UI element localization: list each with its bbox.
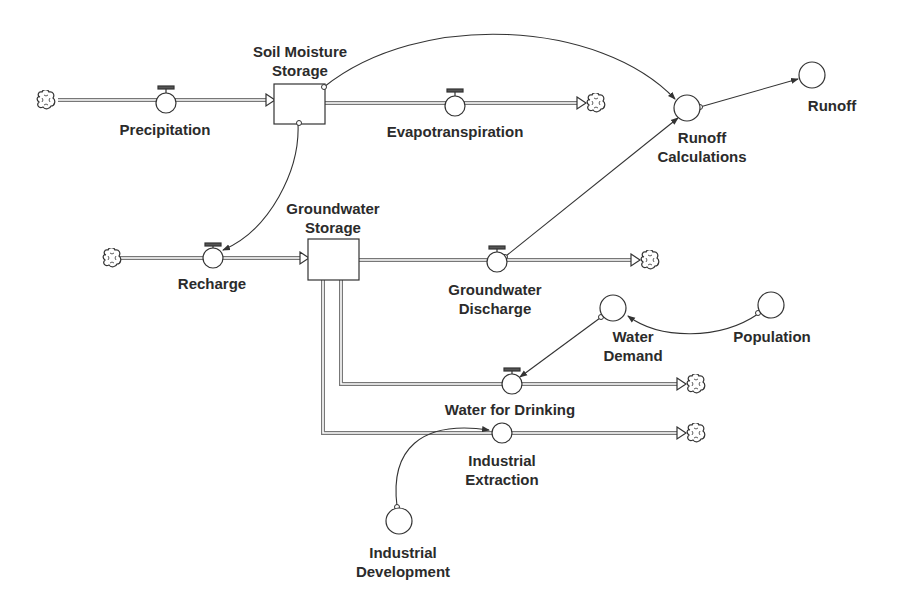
aux-runoff[interactable] (799, 62, 825, 88)
aux-water-demand[interactable] (600, 295, 626, 321)
connector-demand-to-drinking (520, 318, 600, 377)
flow-arrowhead (677, 427, 686, 439)
stock-groundwater[interactable] (308, 239, 359, 280)
stock-soil-moisture[interactable] (274, 84, 325, 124)
label-line: Water (603, 327, 662, 346)
label-groundwater-discharge: Groundwater Discharge (448, 280, 541, 318)
cloud-source-icon (37, 90, 55, 109)
aux-industrial-development[interactable] (386, 508, 412, 534)
aux-runoff-calculations[interactable] (674, 95, 700, 121)
flow-arrowhead (577, 97, 586, 109)
flow-pipes (58, 100, 678, 433)
cloud-source-icon (103, 248, 121, 267)
label-line: Soil Moisture (253, 42, 347, 61)
flow-arrowhead (677, 378, 686, 390)
label-line: Groundwater (448, 280, 541, 299)
label-groundwater-storage: Groundwater Storage (286, 199, 379, 237)
label-line: Storage (286, 218, 379, 237)
label-industrial-development: Industrial Development (356, 543, 450, 581)
cloud-sink-icon (687, 423, 705, 442)
valve-water-for-drinking[interactable] (502, 368, 522, 394)
label-line: Runoff (657, 128, 746, 147)
label-line: Storage (253, 61, 347, 80)
valve-industrial-extraction[interactable] (492, 423, 512, 443)
cloud-sink-icon (587, 93, 605, 112)
valve-groundwater-discharge[interactable] (487, 246, 507, 272)
label-population: Population (733, 327, 811, 346)
valve-evapotranspiration[interactable] (445, 89, 465, 116)
label-line: Calculations (657, 147, 746, 166)
connector-runoffcalc-to-runoff (700, 79, 798, 107)
label-line: Industrial (465, 451, 538, 470)
label-runoff: Runoff (808, 96, 856, 115)
valve-precipitation[interactable] (156, 86, 176, 113)
valve-recharge[interactable] (203, 243, 223, 268)
label-water-demand: Water Demand (603, 327, 662, 365)
label-line: Development (356, 562, 450, 581)
connector-soil-to-runoffcalc (324, 34, 675, 99)
aux-population[interactable] (758, 292, 784, 318)
label-precipitation: Precipitation (120, 120, 211, 139)
label-evapotranspiration: Evapotranspiration (387, 122, 524, 141)
label-line: Extraction (465, 470, 538, 489)
label-recharge: Recharge (178, 274, 246, 293)
label-line: Demand (603, 346, 662, 365)
label-line: Groundwater (286, 199, 379, 218)
label-industrial-extraction: Industrial Extraction (465, 451, 538, 489)
label-runoff-calculations: Runoff Calculations (657, 128, 746, 166)
cloud-sink-icon (687, 374, 705, 393)
connector-gwdischarge-to-runoffcalc (506, 118, 678, 256)
label-line: Discharge (448, 299, 541, 318)
label-soil-moisture-storage: Soil Moisture Storage (253, 42, 347, 80)
cloud-sink-icon (641, 250, 659, 269)
label-water-for-drinking: Water for Drinking (445, 400, 575, 419)
flow-arrowhead (631, 254, 640, 266)
label-line: Industrial (356, 543, 450, 562)
